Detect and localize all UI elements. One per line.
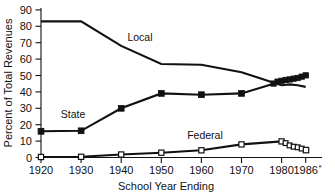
series-label-state: State	[61, 108, 86, 120]
y-tick-label-70: 70	[20, 37, 32, 49]
y-tick-label-10: 10	[20, 135, 32, 147]
y-tick-label-90: 90	[20, 4, 32, 16]
series-label-federal: Federal	[187, 129, 223, 141]
y-tick-label-50: 50	[20, 70, 32, 82]
x-tick-label-1980: 1980	[269, 164, 293, 176]
x-tick-label-1970: 1970	[229, 164, 253, 176]
y-tick-label-80: 80	[20, 20, 32, 32]
y-axis-title: Percent of Total Revenues	[2, 18, 14, 147]
x-tick-label-1960: 1960	[189, 164, 213, 176]
y-tick-label-60: 60	[20, 53, 32, 65]
y-tick-label-20: 20	[20, 119, 32, 131]
x-tick-label-1940: 1940	[109, 164, 133, 176]
x-tick-label-1930: 1930	[69, 164, 93, 176]
revenue-share-line-chart: 0 10 20 30 40 50 60 70 80 90 1920 1930 1	[0, 0, 335, 194]
x-tick-footnote-marker: *	[318, 163, 321, 172]
x-tick-label-1950: 1950	[149, 164, 173, 176]
y-tick-label-40: 40	[20, 86, 32, 98]
x-tick-label-1986: 1986	[293, 164, 317, 176]
series-label-local: Local	[127, 31, 152, 43]
y-tick-label-30: 30	[20, 102, 32, 114]
chart-container: 0 10 20 30 40 50 60 70 80 90 1920 1930 1	[0, 0, 335, 194]
x-axis-title: School Year Ending	[118, 180, 214, 192]
x-tick-label-1920: 1920	[29, 164, 53, 176]
y-tick-label-0: 0	[26, 152, 32, 164]
